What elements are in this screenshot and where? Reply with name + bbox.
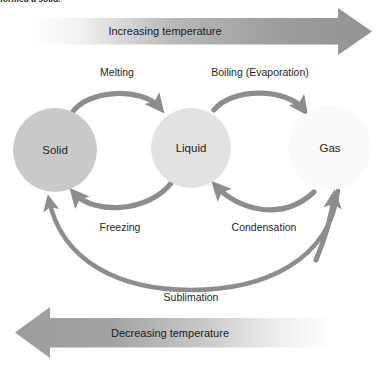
melting-arrow: [72, 93, 160, 113]
freezing-arrow: [74, 182, 172, 208]
transition-label-condensation: Condensation: [232, 221, 297, 233]
transition-label-melting: Melting: [100, 66, 134, 78]
diagram-canvas: [0, 0, 378, 369]
phase-change-diagram: formed a solid.: [0, 0, 378, 369]
state-label-liquid: Liquid: [176, 142, 207, 154]
decreasing-temperature-label: Decreasing temperature: [111, 327, 229, 339]
boiling-arrow: [214, 93, 304, 110]
transition-label-sublimation: Sublimation: [164, 291, 219, 303]
condensation-arrow: [216, 186, 314, 210]
transition-label-freezing: Freezing: [100, 221, 141, 233]
increasing-temperature-label: Increasing temperature: [108, 25, 221, 37]
condensation-riser-arrow: [316, 196, 334, 260]
transition-label-boiling: Boiling (Evaporation): [211, 66, 308, 78]
state-label-gas: Gas: [319, 142, 340, 154]
state-label-solid: Solid: [42, 144, 68, 156]
